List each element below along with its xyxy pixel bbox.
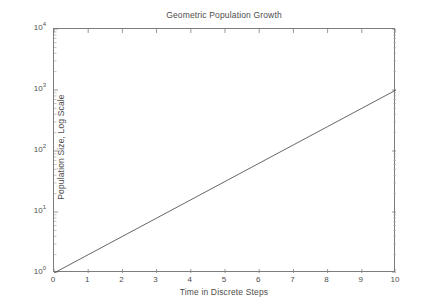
x-tick-label: 4 (178, 275, 202, 284)
x-tick-label: 8 (315, 275, 339, 284)
plot-area (53, 28, 395, 272)
x-tick-label: 2 (109, 275, 133, 284)
chart-title: Geometric Population Growth (53, 10, 395, 20)
y-tick-label: 103 (16, 84, 46, 93)
major-tick-marks (54, 29, 396, 273)
x-tick-label: 1 (75, 275, 99, 284)
y-tick-label: 100 (16, 267, 46, 276)
x-tick-label: 5 (212, 275, 236, 284)
x-tick-label: 10 (383, 275, 407, 284)
y-axis-title: Population Size, Log Scale (56, 25, 66, 269)
minor-tick-marks (54, 32, 396, 255)
y-tick-label: 101 (16, 206, 46, 215)
x-tick-label: 0 (41, 275, 65, 284)
plot-svg (54, 29, 396, 273)
figure-canvas: Geometric Population Growth 012345678910… (0, 0, 421, 303)
x-tick-label: 7 (280, 275, 304, 284)
data-series-line (54, 90, 396, 273)
x-tick-label: 9 (349, 275, 373, 284)
x-tick-label: 3 (144, 275, 168, 284)
y-tick-label: 104 (16, 23, 46, 32)
x-tick-label: 6 (246, 275, 270, 284)
x-axis-title: Time in Discrete Steps (53, 287, 395, 297)
y-tick-label: 102 (16, 145, 46, 154)
